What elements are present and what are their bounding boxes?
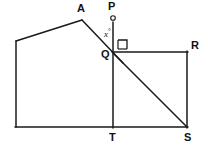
geometry-diagram: A P Q R S T x°: [0, 0, 208, 150]
point-marker-p-icon: [111, 16, 116, 21]
vertex-label-t: T: [109, 132, 116, 143]
vertex-label-a: A: [77, 3, 85, 14]
vertex-label-p: P: [108, 1, 115, 12]
vertex-label-s: S: [184, 132, 191, 143]
diagonal-q-to-s: [113, 53, 187, 127]
degree-symbol-icon: °: [108, 27, 111, 35]
segment-left-upper-edge: [16, 20, 82, 41]
angle-label-x: x°: [104, 27, 111, 39]
vertex-label-r: R: [191, 40, 199, 51]
right-angle-marker-icon: [118, 40, 127, 49]
figure-canvas: [0, 0, 208, 150]
vertex-label-q: Q: [101, 49, 110, 60]
